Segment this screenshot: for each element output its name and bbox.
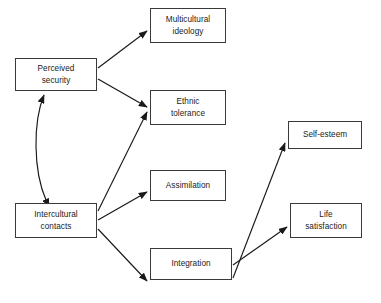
- node-label-ethnic-tolerance: Ethnic tolerance: [169, 96, 207, 118]
- node-label-self-esteem: Self-esteem: [301, 129, 349, 140]
- node-label-intercultural-contacts: Intercultural contacts: [32, 209, 79, 231]
- node-integration[interactable]: Integration: [150, 248, 232, 280]
- node-label-life-satisfaction: Life satisfaction: [303, 209, 349, 231]
- node-label-perceived-security: Perceived security: [36, 63, 77, 85]
- node-self-esteem[interactable]: Self-esteem: [288, 121, 362, 149]
- edge-perceived-security-intercultural-contacts-correlation: [36, 95, 46, 200]
- node-assimilation[interactable]: Assimilation: [150, 170, 226, 201]
- edge-integration-to-life-satisfaction: [233, 227, 287, 265]
- path-diagram: Perceived security Intercultural contact…: [0, 0, 381, 303]
- node-label-integration: Integration: [169, 258, 212, 269]
- node-life-satisfaction[interactable]: Life satisfaction: [290, 203, 362, 238]
- edge-integration-to-self-esteem: [233, 143, 285, 278]
- node-multicultural-ideology[interactable]: Multicultural ideology: [150, 8, 226, 43]
- node-perceived-security[interactable]: Perceived security: [15, 58, 97, 91]
- node-ethnic-tolerance[interactable]: Ethnic tolerance: [150, 90, 226, 125]
- node-intercultural-contacts[interactable]: Intercultural contacts: [15, 203, 97, 238]
- node-label-multicultural-ideology: Multicultural ideology: [164, 14, 212, 36]
- edge-intercultural-contacts-to-integration: [98, 229, 147, 281]
- edge-perceived-security-to-ethnic-tolerance: [98, 79, 147, 107]
- node-label-assimilation: Assimilation: [164, 180, 212, 191]
- edge-perceived-security-to-multicultural-ideology: [98, 31, 147, 68]
